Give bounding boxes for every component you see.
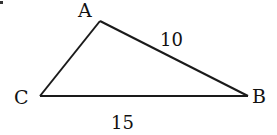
corner-mark <box>0 1 3 4</box>
edge-ca <box>40 21 100 96</box>
triangle-diagram: A B C 10 15 <box>0 0 277 135</box>
side-label-ab: 10 <box>160 29 183 50</box>
vertex-label-b: B <box>252 85 266 107</box>
vertex-label-a: A <box>77 0 92 21</box>
side-label-cb: 15 <box>111 112 134 133</box>
vertex-label-c: C <box>14 86 29 108</box>
